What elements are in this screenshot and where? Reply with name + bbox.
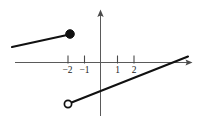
closed-endpoint-marker [66,30,75,39]
graph-figure: −2 −1 1 2 [0,0,200,123]
series-upper-branch [12,30,74,47]
tick-label-pos2: 2 [132,65,137,75]
lower-branch-line [69,57,188,104]
tick-label-pos1: 1 [115,65,120,75]
tick-label-neg2: −2 [62,65,72,75]
x-axis-tick-labels: −2 −1 1 2 [62,65,136,75]
upper-branch-line [12,35,70,48]
tick-label-neg1: −1 [79,65,89,75]
open-endpoint-marker [64,100,71,107]
graph-canvas: −2 −1 1 2 [0,0,200,123]
